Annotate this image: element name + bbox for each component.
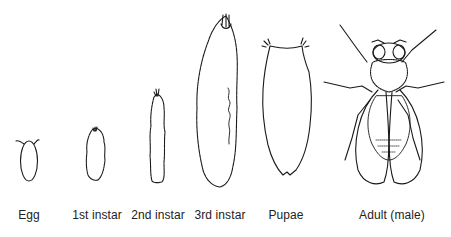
pupae-drawing [262, 38, 311, 175]
stage-label-third-instar: 3rd instar [194, 208, 245, 222]
stage-label-first-instar: 1st instar [72, 208, 122, 222]
egg-drawing [16, 140, 39, 181]
stage-label-pupae: Pupae [268, 208, 303, 222]
stage-label-adult: Adult (male) [359, 208, 425, 222]
stage-label-egg: Egg [18, 208, 40, 222]
first-instar-drawing [86, 127, 105, 180]
life-cycle-diagram [0, 0, 451, 237]
stage-label-second-instar: 2nd instar [131, 208, 185, 222]
third-instar-drawing [197, 14, 238, 187]
adult-fly-drawing [324, 25, 444, 184]
second-instar-drawing [150, 89, 165, 183]
